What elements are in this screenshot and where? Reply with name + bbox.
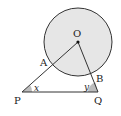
angle-label-x: x	[34, 83, 39, 93]
center-dot	[76, 40, 79, 43]
label-p: P	[14, 95, 21, 106]
angle-label-y: y	[83, 82, 90, 92]
label-b: B	[96, 73, 103, 84]
geometry-diagram: O A B P Q x y	[0, 0, 121, 116]
label-a: A	[39, 57, 48, 68]
label-q: Q	[94, 95, 102, 106]
label-o: O	[73, 28, 81, 39]
